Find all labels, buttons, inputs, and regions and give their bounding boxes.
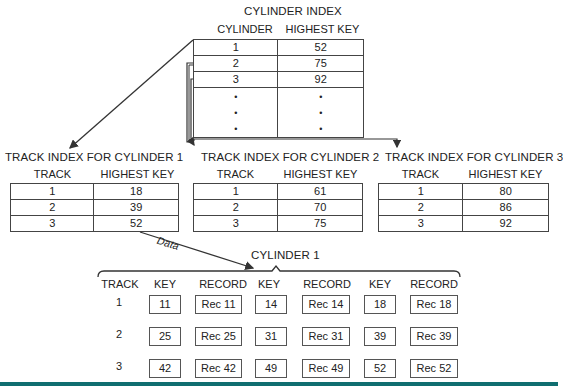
key-box: 11 (149, 295, 181, 314)
record-box: Rec 25 (195, 327, 242, 346)
record-box: Rec 42 (195, 359, 242, 378)
key-box: 52 (364, 359, 396, 378)
key-box: 49 (255, 359, 287, 378)
track-label: 1 (109, 296, 129, 308)
key-box: 39 (364, 327, 396, 346)
record-box: Rec 49 (302, 359, 350, 378)
key-box: 25 (149, 327, 181, 346)
record-box: Rec 11 (195, 295, 242, 314)
cylinder-1-brace (98, 266, 460, 277)
record-box: Rec 18 (410, 295, 458, 314)
record-box: Rec 39 (410, 327, 458, 346)
cylinder-1-header-record-2: RECORD (297, 278, 357, 290)
key-box: 18 (364, 295, 396, 314)
cylinder-1-header-key-1: KEY (145, 278, 185, 290)
cylinder-1-header-key-2: KEY (249, 278, 289, 290)
cylinder-1-title: CYLINDER 1 (251, 249, 320, 261)
track-label: 3 (109, 360, 129, 372)
cylinder-1-header-record-1: RECORD (193, 278, 253, 290)
record-box: Rec 14 (302, 295, 350, 314)
cylinder-1-header-key-3: KEY (360, 278, 400, 290)
cylinder-1-header-record-3: RECORD (404, 278, 464, 290)
bottom-accent-bar (0, 382, 558, 386)
key-box: 31 (255, 327, 287, 346)
arrow-cylinder-1 (70, 40, 193, 148)
cylinder-1-header-track: TRACK (100, 278, 140, 290)
key-box: 14 (255, 295, 287, 314)
record-box: Rec 31 (302, 327, 350, 346)
key-box: 42 (149, 359, 181, 378)
track-label: 2 (109, 328, 129, 340)
arrow-cylinder-3 (191, 79, 397, 147)
record-box: Rec 52 (410, 359, 458, 378)
